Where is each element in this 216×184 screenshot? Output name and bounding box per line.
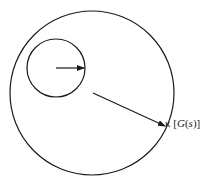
circles-diagram: [0, 0, 216, 184]
bracket-close: ]: [197, 117, 201, 129]
kappa-g-label: κ [G(s)]: [165, 117, 200, 129]
outer-radius-arrow: [93, 93, 165, 126]
diagram-canvas: κ [G(s)]: [0, 0, 216, 184]
outer-circle: [10, 11, 174, 175]
g-symbol: G: [177, 117, 185, 129]
